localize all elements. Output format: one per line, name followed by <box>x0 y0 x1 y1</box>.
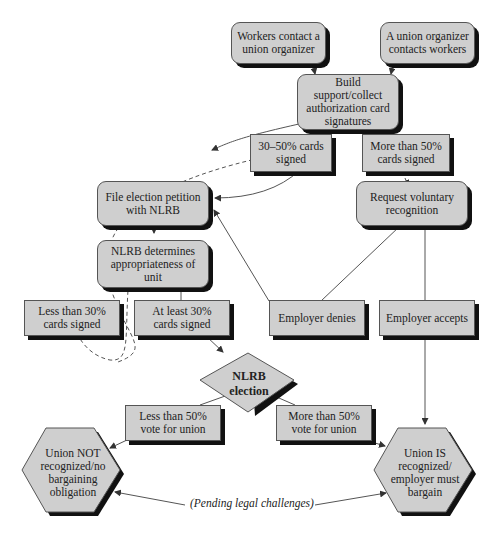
node-label: A union organizer contacts workers <box>385 30 470 56</box>
node-label: Employer accepts <box>386 312 468 325</box>
node-at-least-30: At least 30% cards signed <box>134 300 230 336</box>
node-label: Employer denies <box>278 312 356 325</box>
node-cards-30-50: 30–50% cards signed <box>250 134 332 172</box>
node-label: Less than 50% vote for union <box>130 410 216 436</box>
node-label: Request voluntary recognition <box>361 191 463 217</box>
node-employer-accepts: Employer accepts <box>379 300 475 336</box>
node-build-support: Build support/collect authorization card… <box>297 74 399 130</box>
union-is-label: Union IS recognized/ employer must barga… <box>380 432 470 514</box>
node-label: 30–50% cards signed <box>255 140 327 166</box>
node-label: NLRB determines appropriateness of unit <box>102 245 204 284</box>
union-not-label: Union NOT recognized/no bargaining oblig… <box>28 432 118 514</box>
node-label: At least 30% cards signed <box>139 305 225 331</box>
node-label: Less than 30% cards signed <box>29 305 115 331</box>
node-label: Workers contact a union organizer <box>236 30 321 56</box>
node-file-petition: File election petition with NLRB <box>97 181 209 226</box>
node-label: More than 50% cards signed <box>367 140 445 166</box>
pending-legal-annotation: (Pending legal challenges) <box>190 497 314 509</box>
node-less-30: Less than 30% cards signed <box>24 300 120 336</box>
node-more-50-vote: More than 50% vote for union <box>276 405 372 441</box>
node-less-50-vote: Less than 50% vote for union <box>125 405 221 441</box>
node-workers-contact: Workers contact a union organizer <box>231 22 326 64</box>
node-label: File election petition with NLRB <box>102 191 204 217</box>
node-label: More than 50% vote for union <box>281 410 367 436</box>
node-nlrb-determines: NLRB determines appropriateness of unit <box>97 240 209 288</box>
nlrb-election-label: NLRB election <box>213 369 285 399</box>
node-label: Build support/collect authorization card… <box>302 76 394 128</box>
node-cards-more-50: More than 50% cards signed <box>362 134 450 172</box>
node-employer-denies: Employer denies <box>269 300 365 336</box>
node-organizer-contacts: A union organizer contacts workers <box>380 22 475 64</box>
node-request-voluntary: Request voluntary recognition <box>356 181 468 226</box>
